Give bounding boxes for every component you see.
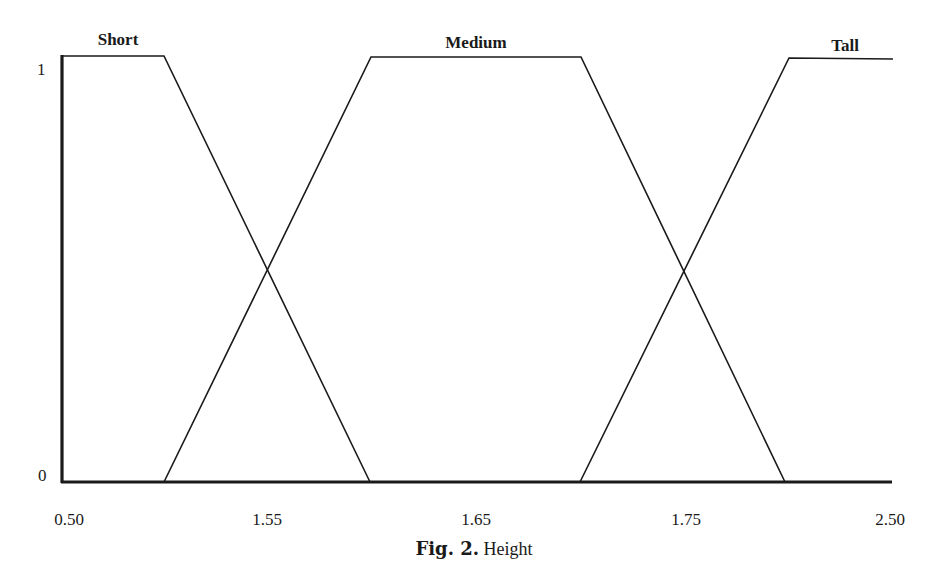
x-tick-1-75: 1.75	[671, 511, 701, 528]
figure-number: Fig. 2.	[415, 538, 479, 559]
x-tick-2-50: 2.50	[875, 511, 905, 528]
series-tall-line	[580, 58, 893, 482]
series-label-short: Short	[98, 31, 139, 48]
figure-title: Height	[484, 539, 533, 559]
x-tick-1-65: 1.65	[461, 511, 491, 528]
x-tick-0-50: 0.50	[54, 511, 84, 528]
series-short-line	[62, 56, 370, 482]
y-tick-0: 0	[38, 467, 47, 484]
x-tick-1-55: 1.55	[252, 511, 282, 528]
series-label-tall: Tall	[831, 37, 859, 54]
y-tick-1: 1	[37, 61, 46, 78]
figure-caption: Fig. 2. Height	[415, 540, 532, 558]
membership-chart	[0, 0, 939, 583]
series-medium-line	[164, 57, 785, 482]
series-label-medium: Medium	[445, 34, 506, 51]
